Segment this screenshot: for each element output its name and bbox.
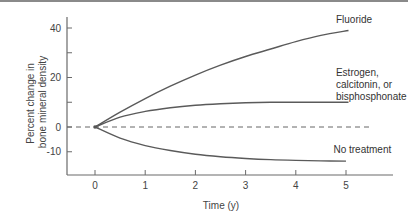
x-tick-label: 5 xyxy=(343,180,349,191)
y-tick-label: 40 xyxy=(50,23,62,34)
series-label-line: No treatment xyxy=(333,144,391,155)
y-axis-label-line-2: bone mineral density xyxy=(37,56,48,148)
x-tick-label: 4 xyxy=(293,180,299,191)
y-axis-label: Percent change in bone mineral density xyxy=(25,56,48,148)
x-tick-label: 1 xyxy=(142,180,148,191)
series-label-0: Fluoride xyxy=(336,14,373,25)
x-tick-label: 2 xyxy=(193,180,199,191)
series-labels: FluorideEstrogen,calcitonin, orbisphosph… xyxy=(333,14,407,155)
x-tick-label: 0 xyxy=(92,180,98,191)
y-axis-label-line-1: Percent change in xyxy=(25,63,36,144)
series-label-1: Estrogen,calcitonin, orbisphosphonate xyxy=(336,67,407,102)
series-label-line: calcitonin, or xyxy=(336,79,393,90)
series-line-0 xyxy=(95,30,349,127)
series-label-line: Estrogen, xyxy=(336,67,379,78)
series-line-1 xyxy=(95,102,349,127)
y-tick-label: -10 xyxy=(47,146,62,157)
series-line-2 xyxy=(95,127,346,161)
y-tick-label: 20 xyxy=(50,72,62,83)
y-tick-label: 0 xyxy=(55,122,61,133)
origin-point xyxy=(93,125,97,129)
series-label-line: bisphosphonate xyxy=(336,91,407,102)
series-label-2: No treatment xyxy=(333,144,391,155)
bone-density-chart: 40200-10012345 FluorideEstrogen,calciton… xyxy=(0,0,408,219)
series-label-line: Fluoride xyxy=(336,14,373,25)
x-tick-label: 3 xyxy=(243,180,249,191)
series-lines xyxy=(93,30,348,161)
x-axis-label: Time (y) xyxy=(203,200,239,211)
